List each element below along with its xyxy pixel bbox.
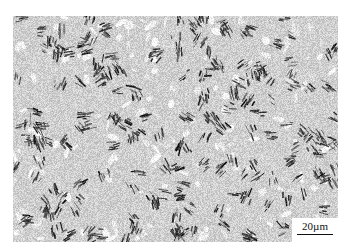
microstructure-texture [13, 16, 338, 242]
scale-bar-label: 20µm [296, 220, 334, 232]
scale-bar-box: 20µm [292, 218, 338, 242]
scale-bar-line [297, 234, 333, 235]
micrograph-image: 20µm [13, 16, 338, 242]
